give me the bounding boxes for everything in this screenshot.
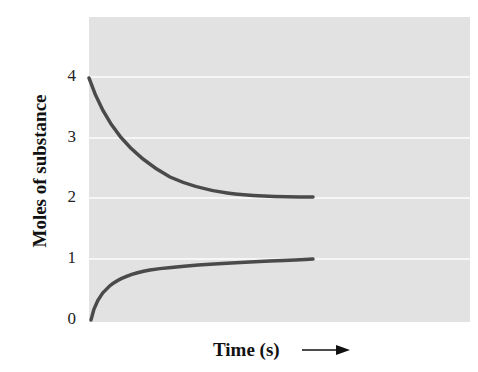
decreasing-curve <box>89 78 313 197</box>
x-axis-label: Time (s) <box>213 339 280 361</box>
increasing-curve <box>91 259 313 320</box>
curves <box>0 0 478 372</box>
right-arrow-icon <box>300 342 352 358</box>
